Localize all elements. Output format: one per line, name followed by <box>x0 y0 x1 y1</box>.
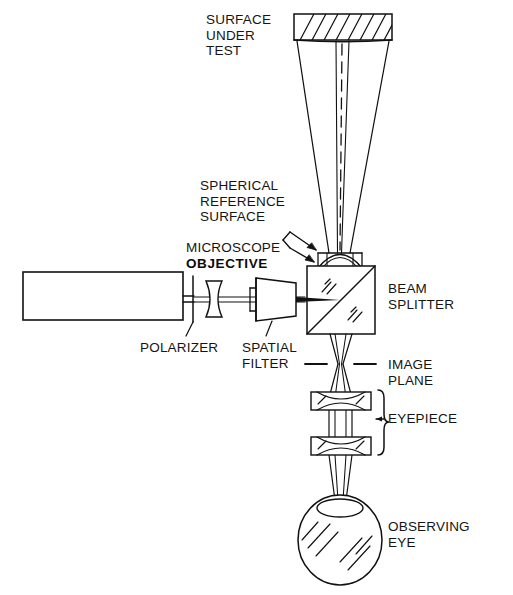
observing-eye <box>298 495 382 585</box>
spatial-filter-body <box>250 278 296 336</box>
optical-axis-dashed <box>340 44 342 250</box>
upper-beam-cone <box>297 41 389 253</box>
polarizer-element <box>186 276 193 336</box>
lower-beam-cone <box>329 334 352 508</box>
surface-under-test <box>294 10 400 44</box>
eyepiece-lens-lower <box>311 437 371 455</box>
spatial-filter-lens <box>206 281 222 317</box>
eyepiece-lens-upper <box>311 392 371 410</box>
he-ne-laser-box <box>23 272 194 320</box>
optical-diagram <box>0 0 513 595</box>
eyepiece-brace <box>378 390 389 455</box>
